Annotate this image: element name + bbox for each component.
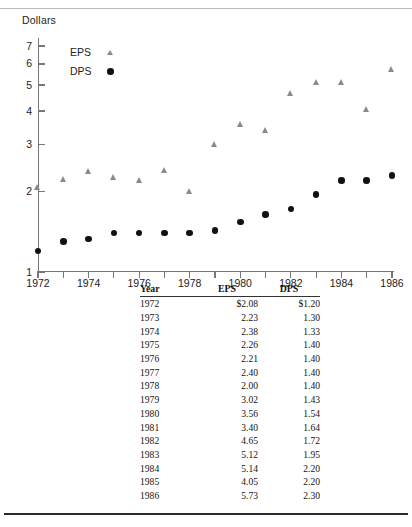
x-tick: [113, 271, 114, 278]
data-point-dps: [363, 177, 370, 184]
cell-year: 1986: [140, 489, 196, 503]
y-tick: [38, 110, 45, 111]
data-point-dps: [85, 236, 92, 243]
y-tick-label: 1: [8, 267, 32, 278]
cell-eps: 3.02: [196, 393, 258, 407]
cell-dps: 1.33: [258, 324, 320, 338]
table-row: 19824.651.72: [140, 434, 320, 448]
y-tick-label: 5: [8, 80, 32, 91]
data-point-dps: [288, 206, 295, 213]
x-tick: [265, 271, 266, 278]
cell-eps: $2.08: [196, 297, 258, 311]
data-point-dps: [237, 219, 244, 226]
cell-year: 1983: [140, 448, 196, 462]
cell-year: 1978: [140, 379, 196, 393]
x-tick: [316, 271, 317, 278]
data-point-eps: [313, 79, 319, 85]
cell-eps: 2.21: [196, 352, 258, 366]
data-point-eps: [85, 168, 91, 174]
table-row: 19772.401.40: [140, 365, 320, 379]
data-point-eps: [186, 188, 192, 194]
cell-dps: 1.40: [258, 338, 320, 352]
data-point-dps: [212, 227, 219, 234]
cell-dps: 1.40: [258, 379, 320, 393]
cell-year: 1980: [140, 407, 196, 421]
x-tick-label: 1972: [18, 278, 58, 289]
table-row: 19742.381.33: [140, 324, 320, 338]
cell-year: 1982: [140, 434, 196, 448]
data-point-eps: [60, 176, 66, 182]
data-point-eps: [161, 167, 167, 173]
data-point-eps: [211, 141, 217, 147]
cell-eps: 4.65: [196, 434, 258, 448]
cell-eps: 3.40: [196, 420, 258, 434]
x-tick-label: 1974: [69, 278, 109, 289]
table-row: 19803.561.54: [140, 407, 320, 421]
data-point-dps: [262, 211, 269, 218]
cell-eps: 2.38: [196, 324, 258, 338]
data-point-dps: [338, 177, 345, 184]
cell-dps: 1.40: [258, 352, 320, 366]
x-tick: [63, 271, 64, 278]
cell-dps: 1.95: [258, 448, 320, 462]
cell-year: 1973: [140, 311, 196, 325]
y-tick: [38, 84, 45, 85]
column-header-eps: EPS: [196, 283, 258, 297]
cell-dps: $1.20: [258, 297, 320, 311]
table-row: 19845.142.20: [140, 461, 320, 475]
table-row: 19854.052.20: [140, 475, 320, 489]
x-tick: [164, 271, 165, 278]
table-row: 1972$2.08$1.20: [140, 297, 320, 311]
y-tick: [38, 45, 45, 46]
data-point-eps: [237, 121, 243, 127]
column-header-year: Year: [140, 283, 196, 297]
x-tick-label: 1986: [372, 278, 412, 289]
data-point-eps: [388, 66, 394, 72]
page-bottom-rule: [4, 513, 408, 515]
cell-year: 1972: [140, 297, 196, 311]
data-point-dps: [136, 230, 143, 237]
x-tick: [366, 271, 367, 278]
data-point-eps: [287, 90, 293, 96]
cell-dps: 1.43: [258, 393, 320, 407]
y-tick: [38, 63, 45, 64]
y-tick-label: 6: [8, 58, 32, 69]
data-point-eps: [338, 79, 344, 85]
data-point-dps: [111, 230, 118, 237]
cell-eps: 5.14: [196, 461, 258, 475]
table-body: 1972$2.08$1.2019732.231.3019742.381.3319…: [140, 297, 320, 503]
y-tick: [38, 271, 45, 272]
data-point-dps: [313, 191, 320, 198]
table-row: 19762.211.40: [140, 352, 320, 366]
table-row: 19782.001.40: [140, 379, 320, 393]
cell-dps: 2.30: [258, 489, 320, 503]
data-point-eps: [262, 127, 268, 133]
x-tick-label: 1984: [321, 278, 361, 289]
cell-year: 1985: [140, 475, 196, 489]
cell-year: 1979: [140, 393, 196, 407]
cell-eps: 3.56: [196, 407, 258, 421]
cell-dps: 2.20: [258, 461, 320, 475]
y-tick-label: 2: [8, 186, 32, 197]
cell-dps: 2.20: [258, 475, 320, 489]
cell-dps: 1.54: [258, 407, 320, 421]
triangle-marker-icon: [107, 50, 113, 55]
y-tick: [38, 144, 45, 145]
cell-year: 1984: [140, 461, 196, 475]
cell-year: 1981: [140, 420, 196, 434]
y-tick-label: 4: [8, 106, 32, 117]
cell-year: 1976: [140, 352, 196, 366]
cell-eps: 2.00: [196, 379, 258, 393]
data-point-eps: [110, 174, 116, 180]
table-row: 19813.401.64: [140, 420, 320, 434]
data-point-eps: [34, 184, 40, 190]
y-axis-title: Dollars: [22, 14, 56, 26]
data-point-eps: [363, 106, 369, 112]
column-header-dps: DPS: [258, 283, 320, 297]
cell-eps: 5.12: [196, 448, 258, 462]
cell-year: 1974: [140, 324, 196, 338]
table-header-row: Year EPS DPS: [140, 283, 320, 297]
y-tick: [38, 191, 45, 192]
legend-label-dps: DPS: [70, 65, 92, 77]
cell-year: 1975: [140, 338, 196, 352]
